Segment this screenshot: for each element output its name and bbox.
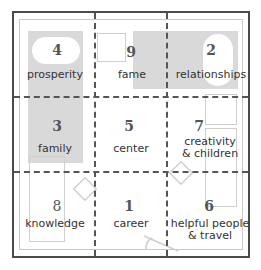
cell-label-prosperity: prosperity <box>14 68 96 81</box>
cell-label-center: center <box>96 142 166 155</box>
creativity-diamond <box>170 162 193 185</box>
cell-number-4: 4 <box>40 42 74 58</box>
cell-number-7: 7 <box>192 118 206 134</box>
cell-label-career: career <box>96 217 166 230</box>
cell-number-1: 1 <box>112 198 146 214</box>
cell-label-family: family <box>14 142 96 155</box>
cell-label-creativity-2: & children <box>168 147 252 160</box>
cell-label-relationships: relationships <box>166 68 256 81</box>
grid-line-h2 <box>14 171 248 173</box>
cell-number-8: 8 <box>40 198 74 214</box>
cell-number-3: 3 <box>40 118 74 134</box>
grid-line-h1 <box>14 96 248 98</box>
cell-label-fame: fame <box>110 68 154 81</box>
knowledge-diamond <box>74 178 97 201</box>
cell-number-6: 6 <box>192 198 226 214</box>
cell-number-5: 5 <box>112 118 146 134</box>
cell-number-9: 9 <box>124 44 138 60</box>
cell-label-helpful-2: & travel <box>165 229 255 242</box>
cell-label-knowledge: knowledge <box>14 217 96 230</box>
cell-number-2: 2 <box>200 42 222 58</box>
